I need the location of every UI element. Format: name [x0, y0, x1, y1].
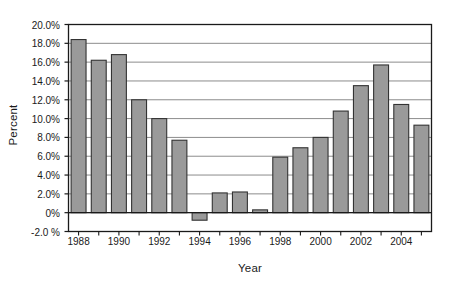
bar[interactable] — [394, 104, 409, 212]
bar[interactable] — [232, 192, 247, 213]
plot-area — [0, 0, 456, 290]
x-axis-title: Year — [68, 262, 432, 274]
bar[interactable] — [353, 86, 368, 213]
bar[interactable] — [212, 193, 227, 213]
bar[interactable] — [71, 40, 86, 213]
x-axis-title-text: Year — [238, 262, 262, 274]
bar[interactable] — [293, 148, 308, 213]
bar-chart: Percent 20.0%18.0%16.0%14.0%12.0%10.0%8.… — [0, 0, 456, 290]
bar[interactable] — [374, 65, 389, 213]
bar[interactable] — [91, 60, 106, 212]
bar[interactable] — [333, 111, 348, 213]
bar[interactable] — [172, 140, 187, 212]
bar[interactable] — [111, 55, 126, 213]
bar[interactable] — [313, 137, 328, 212]
bar[interactable] — [192, 213, 207, 221]
bar[interactable] — [132, 100, 147, 213]
bar[interactable] — [414, 125, 429, 213]
bar[interactable] — [273, 157, 288, 213]
bar[interactable] — [152, 119, 167, 213]
